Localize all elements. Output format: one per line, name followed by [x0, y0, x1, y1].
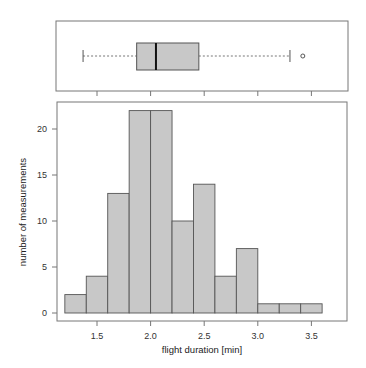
- boxplot-panel: [56, 21, 348, 96]
- outlier-point: [301, 54, 305, 58]
- histogram-bar: [129, 111, 150, 313]
- x-axis-title: flight duration [min]: [162, 344, 242, 355]
- histogram-bar: [151, 111, 172, 313]
- y-tick-label: 10: [37, 216, 47, 226]
- histogram-bar: [279, 304, 300, 313]
- y-tick-label: 15: [37, 170, 47, 180]
- histogram-bar: [236, 249, 257, 313]
- chart-canvas: 051015201.52.02.53.03.5flight duration […: [0, 0, 366, 368]
- x-tick-label: 3.5: [305, 331, 318, 341]
- histogram-bar: [215, 276, 236, 313]
- histogram-bar: [301, 304, 322, 313]
- histogram-bar: [193, 184, 214, 313]
- histogram-bar: [108, 193, 129, 313]
- x-tick-label: 2.0: [144, 331, 157, 341]
- x-tick-label: 3.0: [252, 331, 265, 341]
- y-tick-label: 0: [42, 308, 47, 318]
- x-tick-label: 2.5: [198, 331, 211, 341]
- y-tick-label: 20: [37, 124, 47, 134]
- histogram-bar: [172, 221, 193, 313]
- histogram-bar: [258, 304, 279, 313]
- x-tick-label: 1.5: [91, 331, 104, 341]
- histogram-bar: [65, 295, 86, 313]
- histogram-bar: [86, 276, 107, 313]
- y-axis-title: number of measurements: [17, 158, 28, 266]
- histogram-panel: 051015201.52.02.53.03.5flight duration […: [17, 102, 347, 355]
- y-tick-label: 5: [42, 262, 47, 272]
- iqr-box: [137, 43, 199, 70]
